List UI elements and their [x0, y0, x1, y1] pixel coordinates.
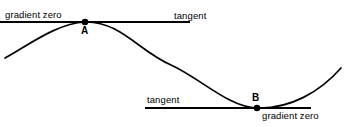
label-point-b: B [252, 92, 259, 103]
gradient-zero-diagram: gradient zero tangent A tangent B gradie… [0, 0, 345, 127]
label-point-a: A [81, 25, 88, 36]
label-gradient-zero-bottom: gradient zero [262, 110, 319, 121]
point-b-marker [254, 105, 261, 112]
label-tangent-bottom: tangent [147, 94, 179, 105]
label-gradient-zero-top: gradient zero [5, 9, 62, 20]
label-tangent-top: tangent [174, 10, 206, 21]
